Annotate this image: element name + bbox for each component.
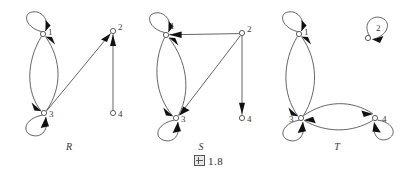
node-T-2[interactable] — [365, 35, 370, 40]
arrowhead-R-4-2 — [110, 34, 116, 46]
node-label-T-2: 2 — [376, 23, 381, 33]
arrowhead-S-3-3 — [173, 122, 181, 133]
arrowhead-S-2-4 — [239, 103, 245, 115]
arrowhead-T-4-3 — [304, 117, 316, 123]
figure-caption: 1.8 — [0, 155, 417, 167]
node-R-1[interactable] — [40, 31, 45, 36]
arrowhead-R-3-2 — [101, 33, 111, 42]
node-R-2[interactable] — [110, 28, 115, 33]
node-label-S-2: 2 — [247, 24, 252, 34]
node-R-4[interactable] — [110, 110, 115, 115]
graph-caption-R: R — [65, 141, 72, 152]
node-label-S-3: 3 — [181, 114, 186, 124]
edge-T-3-to-4 — [303, 104, 372, 116]
directed-graphs-diagram: 1 2 3 4 R — [0, 0, 417, 180]
node-T-1[interactable] — [296, 31, 301, 36]
node-label-T-3: 3 — [289, 114, 294, 124]
edge-R-1-to-3 — [30, 36, 42, 110]
node-S-2[interactable] — [239, 30, 244, 35]
node-S-4[interactable] — [239, 115, 244, 120]
arrowhead-T-4-4 — [372, 122, 380, 132]
graph-S: 1 2 3 4 S — [150, 13, 252, 152]
self-loop-R-1 — [27, 12, 47, 32]
edge-S-2-to-3 — [179, 36, 240, 116]
graph-T: 1 2 3 4 T — [283, 12, 394, 152]
figure-container: 1 2 3 4 R — [0, 0, 417, 180]
cjk-tu-character-glyph — [194, 155, 205, 166]
node-S-3[interactable] — [173, 115, 178, 120]
arrowhead-S-2-1 — [169, 31, 181, 38]
self-loop-S-1 — [150, 13, 170, 33]
graph-caption-T: T — [334, 141, 341, 152]
node-label-T-1: 1 — [304, 27, 309, 37]
arrowhead-T-3-3 — [298, 122, 306, 133]
node-label-R-2: 2 — [118, 22, 123, 32]
node-T-3[interactable] — [298, 115, 303, 120]
node-label-R-1: 1 — [48, 27, 53, 37]
self-loop-T-1 — [283, 12, 303, 32]
node-S-1[interactable] — [163, 32, 168, 37]
edge-S-1-to-3 — [157, 37, 173, 115]
edge-T-1-to-3 — [286, 36, 298, 115]
edge-T-3-to-1 — [302, 37, 315, 116]
node-label-S-4: 4 — [247, 114, 252, 124]
node-label-S-1: 1 — [170, 21, 175, 31]
graph-R: 1 2 3 4 R — [26, 12, 123, 152]
figure-number: 1.8 — [208, 155, 223, 167]
arrowhead-R-3-3 — [41, 117, 49, 128]
node-R-3[interactable] — [41, 110, 46, 115]
arrowhead-T-2-2 — [372, 36, 383, 43]
node-label-T-4: 4 — [382, 114, 387, 124]
node-T-4[interactable] — [372, 115, 377, 120]
edge-S-3-to-1 — [169, 38, 186, 115]
node-label-R-3: 3 — [49, 109, 54, 119]
arrowhead-T-3-4 — [361, 110, 373, 117]
edge-R-3-to-2 — [46, 33, 110, 111]
node-label-R-4: 4 — [118, 109, 123, 119]
graph-caption-S: S — [199, 141, 204, 152]
